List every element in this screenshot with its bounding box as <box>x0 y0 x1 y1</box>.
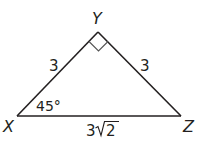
vertex-label-y: Y <box>92 9 103 28</box>
side-label-xz-coef: 3 <box>86 122 96 140</box>
vertex-label-z: Z <box>182 117 195 136</box>
side-label-xz-radicand: 2 <box>106 122 116 140</box>
side-label-yz: 3 <box>140 57 150 75</box>
vertex-label-x: X <box>2 117 15 136</box>
right-angle-marker <box>89 42 108 52</box>
triangle-diagram: Y X Z 3 3 3 2 45° <box>0 0 209 152</box>
side-label-xy: 3 <box>49 57 59 75</box>
side-label-xz: 3 2 <box>86 122 119 141</box>
angle-label-x: 45° <box>36 98 61 114</box>
